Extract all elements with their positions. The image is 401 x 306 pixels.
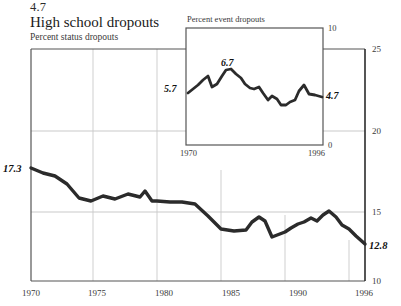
main-xtick-1975: 1975 [88, 288, 106, 298]
main-xtick-1980: 1980 [155, 288, 173, 298]
inset-chart [186, 28, 323, 145]
inset-xtick-1970: 1970 [180, 148, 197, 158]
status-dropouts-line [31, 168, 365, 244]
event-end-label: 4.7 [326, 90, 339, 101]
main-chart: 17.3 12.8 [0, 0, 401, 306]
inset-xtick-1996: 1996 [308, 148, 325, 158]
main-xtick-1985: 1985 [222, 288, 240, 298]
inset-ytick-10: 10 [328, 23, 337, 33]
event-peak-label: 6.7 [221, 57, 234, 68]
main-xtick-1996: 1996 [355, 288, 373, 298]
main-xtick-1970: 1970 [22, 288, 40, 298]
status-end-label: 12.8 [369, 240, 388, 251]
main-ytick-20: 20 [372, 126, 381, 136]
main-ytick-25: 25 [372, 44, 381, 54]
main-xtick-1990: 1990 [289, 288, 307, 298]
main-ytick-15: 15 [372, 207, 381, 217]
inset-ytick-0: 0 [328, 140, 332, 150]
inset-title: Percent event dropouts [187, 14, 265, 25]
main-ytick-10: 10 [372, 276, 381, 286]
status-start-label: 17.3 [3, 163, 21, 174]
event-start-label: 5.7 [164, 83, 177, 94]
